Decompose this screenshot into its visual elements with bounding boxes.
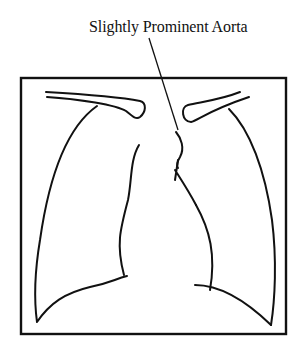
annotation-leader-line <box>149 38 178 130</box>
right-lung-outline <box>35 106 127 322</box>
left-lung-outline <box>229 109 275 325</box>
left-clavicle <box>183 92 249 122</box>
film-frame <box>21 78 286 334</box>
right-clavicle <box>46 92 145 118</box>
mediastinum-right-border <box>120 145 139 275</box>
left-hemidiaphragm <box>195 285 271 325</box>
heart-left-border <box>196 205 212 290</box>
chest-xray-diagram <box>0 0 304 347</box>
